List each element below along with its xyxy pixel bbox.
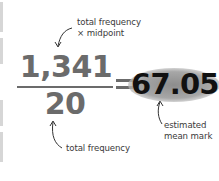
denominator-arrow-icon [52, 122, 62, 148]
denominator: 20 [17, 87, 113, 121]
result-value: 67.05 [131, 66, 217, 102]
result-annotation: estimated mean mark [164, 120, 212, 141]
numerator-annotation: total frequency × midpoint [77, 17, 141, 38]
numerator-annotation-line-1: total frequency [77, 17, 141, 28]
numerator-annotation-line-2: × midpoint [77, 28, 141, 39]
denominator-annotation: total frequency [66, 143, 130, 154]
result-annotation-line-1: estimated [164, 120, 212, 131]
result-arrow-icon [158, 102, 162, 124]
numerator: 1,341 [17, 50, 115, 84]
result-annotation-line-2: mean mark [164, 131, 212, 142]
